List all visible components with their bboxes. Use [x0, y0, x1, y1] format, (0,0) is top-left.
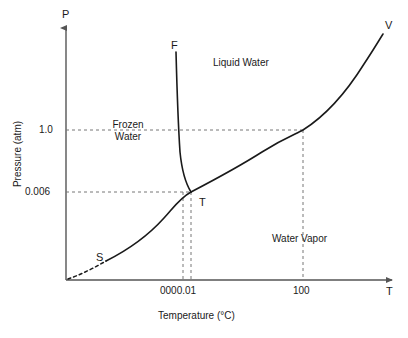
triple-point-label-t: T: [199, 196, 206, 208]
x-tick-label-100: 100: [293, 285, 310, 297]
region-label-water-vapor: Water Vapor: [272, 233, 327, 245]
vaporization-curve-label-v: V: [385, 19, 392, 31]
x-axis-name-t: T: [386, 285, 393, 297]
fusion-curve: [176, 52, 191, 192]
sublimation-curve-dashed-segment: [68, 261, 106, 279]
x-axis-title: Temperature (°C): [158, 310, 235, 322]
y-tick-label-1: 1.0: [39, 124, 53, 136]
sublimation-curve-label-s: S: [96, 251, 103, 263]
phase-diagram-plot: [0, 0, 408, 338]
region-label-frozen-water-line1: Frozen: [99, 119, 157, 131]
sublimation-curve: [106, 192, 191, 261]
phase-diagram-figure: Pressure (atm) P T 1.0 0.006 0000.01 100…: [0, 0, 408, 338]
x-tick-label-zero-and-triple-point: 0000.01: [160, 285, 196, 297]
fusion-curve-label-f: F: [171, 39, 178, 51]
y-axis-title: Pressure (atm): [12, 104, 24, 204]
y-axis-name-p: P: [62, 8, 69, 20]
y-tick-label-0006: 0.006: [25, 186, 50, 198]
region-label-liquid-water: Liquid Water: [213, 57, 269, 69]
region-label-frozen-water-line2: Water: [99, 131, 157, 143]
